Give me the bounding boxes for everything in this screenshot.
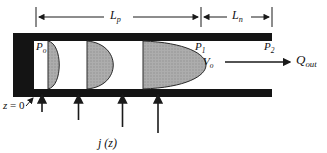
- injection-flux-label: j (z): [98, 137, 117, 149]
- pressure-label-p2: P2: [264, 41, 274, 52]
- velocity-profile-1: [48, 41, 59, 89]
- z-origin-label: z = 0: [3, 100, 25, 111]
- channel-top-wall: [13, 33, 272, 41]
- velocity-label-v0: Vo: [203, 56, 213, 67]
- velocity-profile-2: [87, 41, 113, 89]
- pressure-label-p1: P1: [195, 41, 205, 52]
- length-label-ln: Ln: [230, 9, 245, 21]
- pressure-label-p0: Po: [36, 41, 46, 52]
- flow-channel-diagram: [0, 0, 327, 153]
- length-label-lp: Lp: [108, 9, 123, 21]
- closed-end-block: [13, 33, 34, 97]
- channel-bottom-wall: [13, 89, 272, 97]
- z-origin-pointer-arrow: [26, 98, 33, 106]
- outflow-label-qout: Qout: [296, 53, 317, 66]
- flow-channel-figure: Lp Ln Po P1 P2 Vo Qout z = 0 j (z): [0, 0, 327, 153]
